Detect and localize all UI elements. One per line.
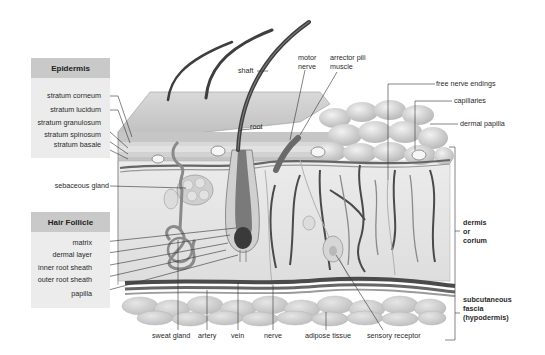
label-inner-root-sheath: inner root sheath bbox=[38, 264, 92, 272]
label-stratum-corneum: stratum corneum bbox=[47, 92, 101, 100]
label-vein: vein bbox=[231, 332, 244, 340]
label-motor-nerve-line1: motor bbox=[298, 54, 316, 62]
label-nerve: nerve bbox=[264, 332, 282, 340]
label-dermal-papilla: dermal papilla bbox=[460, 120, 505, 128]
label-subcutaneous-line3: (hypodermis) bbox=[463, 314, 509, 322]
epidermis-panel-title: Epidermis bbox=[31, 58, 110, 78]
label-arrector-pili-line2: muscle bbox=[330, 63, 353, 71]
label-free-nerve-endings: free nerve endings bbox=[436, 80, 496, 88]
label-dermis-line1: dermis bbox=[463, 219, 487, 227]
label-matrix: matrix bbox=[72, 239, 92, 247]
label-dermis-line2: or bbox=[463, 228, 470, 236]
label-artery: artery bbox=[198, 332, 216, 340]
label-stratum-basale: stratum basale bbox=[54, 141, 101, 149]
label-sebaceous-gland: sebaceous gland bbox=[55, 182, 109, 190]
label-arrector-pili-line1: arrector pili bbox=[330, 54, 366, 62]
skin-diagram: Epidermis stratum corneum stratum lucidu… bbox=[0, 0, 545, 355]
label-adipose-tissue: adipose tissue bbox=[305, 332, 351, 340]
label-subcutaneous-line1: subcutaneous bbox=[463, 296, 512, 304]
label-shaft: shaft bbox=[238, 67, 254, 75]
subdermal-vessels bbox=[125, 279, 455, 296]
label-root: root bbox=[250, 123, 262, 131]
epidermis-surface bbox=[118, 92, 333, 161]
hair-follicle-panel-title: Hair Follicle bbox=[31, 212, 110, 232]
hair-follicle bbox=[225, 150, 259, 262]
label-dermis-line3: corium bbox=[463, 237, 487, 245]
label-stratum-granulosum: stratum granulosum bbox=[37, 119, 101, 127]
adipose-tissue bbox=[122, 296, 446, 326]
dermal-papillae bbox=[314, 100, 454, 165]
label-outer-root-sheath: outer root sheath bbox=[38, 276, 92, 284]
label-capillaries: capillaries bbox=[454, 97, 486, 105]
label-stratum-lucidum: stratum lucidum bbox=[50, 106, 101, 114]
label-papilla: papilla bbox=[71, 290, 92, 298]
label-motor-nerve-line2: nerve bbox=[298, 63, 316, 71]
label-sensory-receptor: sensory receptor bbox=[367, 332, 421, 340]
label-dermal-layer: dermal layer bbox=[52, 251, 92, 259]
label-subcutaneous-line2: fascia bbox=[463, 305, 483, 313]
label-stratum-spinosum: stratum spinosum bbox=[44, 131, 101, 139]
label-sweat-gland: sweat gland bbox=[152, 332, 190, 340]
